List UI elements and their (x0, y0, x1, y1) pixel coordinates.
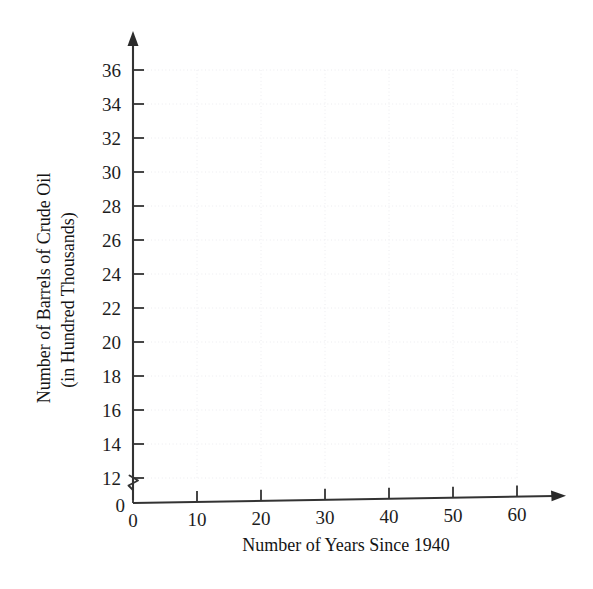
chart-container: 12141618202224262830323436 0102030405060… (0, 0, 593, 589)
x-axis-tick-label: 60 (508, 504, 527, 525)
x-axis-tick-label: 10 (188, 509, 207, 530)
y-axis-tick-label: 14 (102, 434, 122, 455)
x-axis-tick-label: 40 (380, 506, 399, 527)
x-axis-tick-label: 0 (128, 510, 138, 531)
x-axis-title: Number of Years Since 1940 (242, 535, 449, 555)
y-axis-tick-label: 18 (102, 366, 121, 387)
y-axis-tick-label: 12 (102, 468, 121, 489)
y-axis-origin-label: 0 (116, 495, 126, 516)
x-axis-tick-label: 20 (252, 508, 271, 529)
y-axis-tick-label: 34 (102, 94, 122, 115)
y-axis-tick-label: 28 (102, 196, 121, 217)
y-axis-title-line1: Number of Barrels of Crude Oil (34, 173, 54, 403)
y-axis-tick-label: 24 (102, 264, 122, 285)
coordinate-grid-chart: 12141618202224262830323436 0102030405060… (0, 0, 593, 589)
y-axis-tick-label: 20 (102, 332, 121, 353)
y-axis-title-line2: (in Hundred Thousands) (58, 212, 79, 388)
x-axis-tick-label: 30 (316, 507, 335, 528)
y-axis-tick-label: 26 (102, 230, 121, 251)
y-axis-tick-label: 30 (102, 162, 121, 183)
y-axis-tick-label: 16 (102, 400, 121, 421)
y-axis-tick-label: 36 (102, 60, 121, 81)
x-axis-tick-label: 50 (444, 505, 463, 526)
y-axis-tick-label: 22 (102, 298, 121, 319)
y-axis-tick-label: 32 (102, 128, 121, 149)
